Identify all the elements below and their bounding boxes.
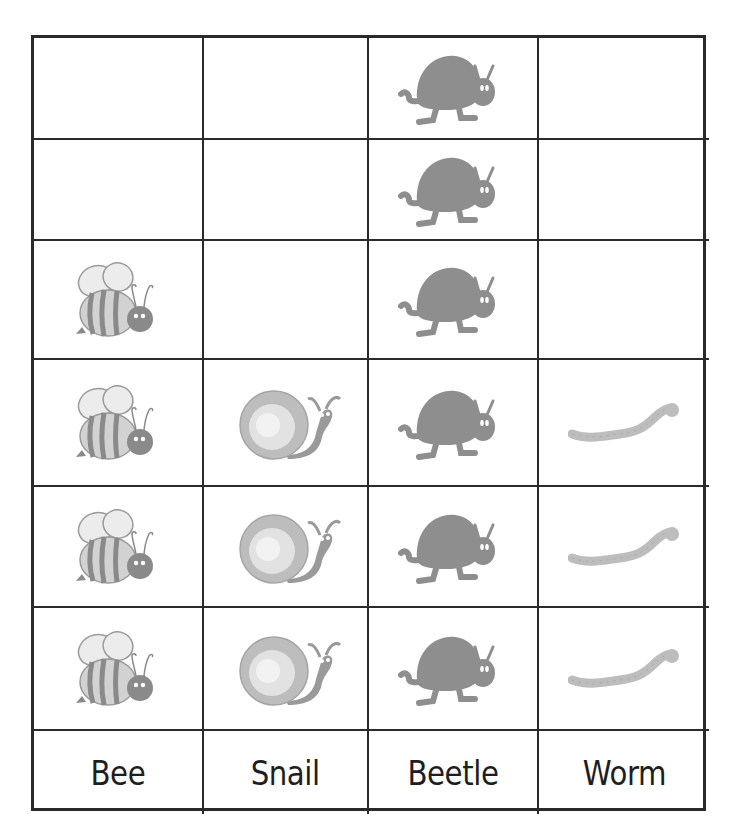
grid-cell <box>369 38 539 140</box>
grid-cell <box>539 140 709 241</box>
snail-icon <box>226 627 346 711</box>
beetle-icon <box>395 385 511 461</box>
grid-cell <box>539 608 709 731</box>
worm-icon <box>568 646 680 692</box>
worm-icon <box>568 524 680 570</box>
grid-cell <box>34 360 204 487</box>
category-label-cell: Bee <box>34 731 204 814</box>
grid-cell <box>369 608 539 731</box>
category-label-cell: Worm <box>539 731 709 814</box>
grid-cell <box>369 140 539 241</box>
category-label-cell: Snail <box>204 731 369 814</box>
category-label: Worm <box>582 753 665 793</box>
pictograph-table: BeeSnailBeetleWorm <box>31 35 706 811</box>
beetle-icon <box>395 152 511 228</box>
worm-icon <box>568 400 680 446</box>
grid-cell <box>539 241 709 360</box>
bee-icon <box>68 626 168 712</box>
category-label: Bee <box>91 753 146 793</box>
grid-cell <box>204 38 369 140</box>
grid-cell <box>539 38 709 140</box>
category-label-cell: Beetle <box>369 731 539 814</box>
bee-icon <box>68 380 168 466</box>
grid-cell <box>204 360 369 487</box>
grid-cell <box>539 487 709 608</box>
grid-cell <box>204 140 369 241</box>
bee-icon <box>68 257 168 343</box>
category-label: Beetle <box>407 753 498 793</box>
beetle-icon <box>395 262 511 338</box>
grid-cell <box>369 241 539 360</box>
grid-cell <box>34 487 204 608</box>
grid-cell <box>369 360 539 487</box>
grid-cell <box>34 140 204 241</box>
beetle-icon <box>395 631 511 707</box>
category-label: Snail <box>251 753 320 793</box>
snail-icon <box>226 505 346 589</box>
grid-cell <box>369 487 539 608</box>
grid-cell <box>204 608 369 731</box>
grid-cell <box>204 487 369 608</box>
snail-icon <box>226 381 346 465</box>
grid-cell <box>34 38 204 140</box>
grid-cell <box>539 360 709 487</box>
bee-icon <box>68 504 168 590</box>
beetle-icon <box>395 509 511 585</box>
beetle-icon <box>395 50 511 126</box>
grid-cell <box>204 241 369 360</box>
grid-cell <box>34 608 204 731</box>
grid-cell <box>34 241 204 360</box>
